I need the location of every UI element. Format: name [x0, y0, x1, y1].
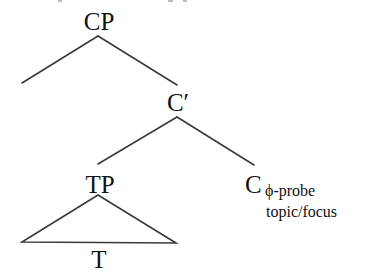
edge-cbar-tp: [98, 117, 177, 164]
edge-cp-spec: [22, 36, 98, 83]
node-c-bar: C′: [167, 89, 189, 116]
node-c-head: C: [245, 171, 262, 198]
edge-cbar-c: [177, 117, 254, 165]
node-c-subscript-topic-focus: topic/focus: [266, 203, 337, 221]
node-cp: CP: [84, 8, 115, 35]
edge-cp-cbar: [98, 36, 177, 85]
clipped-caption-remnant: [58, 0, 187, 2]
node-t: T: [91, 246, 106, 273]
syntax-tree-diagram: CP C′ TP C ϕ-probe topic/focus T: [0, 0, 371, 279]
node-tp: TP: [85, 171, 114, 198]
node-c-subscript-probe: ϕ-probe: [265, 182, 315, 200]
tp-triangle: [22, 195, 176, 243]
